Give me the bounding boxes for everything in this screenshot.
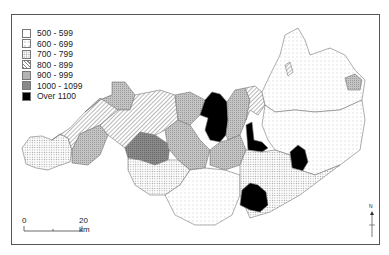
legend-item: 600 - 699 [22,39,82,50]
legend-label: 800 - 899 [37,60,73,70]
region [22,134,72,170]
legend-item: 700 - 799 [22,49,82,60]
legend-label: 500 - 599 [37,28,73,38]
scale-bar: 0 20 km [22,222,84,234]
legend-swatch-solid-icon [22,92,31,101]
region [175,92,205,125]
north-arrow-icon [367,203,377,239]
legend-swatch-hatch-icon [22,60,31,69]
legend-item: 900 - 999 [22,70,82,81]
legend-swatch-sparse-dots-icon [22,39,31,48]
legend: 500 - 599 600 - 699 700 - 799 800 - 899 … [22,28,82,102]
legend-item: 500 - 599 [22,28,82,39]
legend-swatch-crosshatch-icon [22,71,31,80]
legend-item: Over 1100 [22,91,82,102]
legend-label: 700 - 799 [37,49,73,59]
legend-swatch-dark-crosshatch-icon [22,81,31,90]
north-arrow: N [367,203,377,239]
legend-swatch-dense-dots-icon [22,50,31,59]
legend-label: 1000 - 1099 [37,81,82,91]
legend-swatch-blank-icon [22,29,31,38]
legend-label: 900 - 999 [37,70,73,80]
scale-bar-line-icon [22,222,84,234]
region [262,28,365,112]
legend-label: 600 - 699 [37,39,73,49]
legend-item: 800 - 899 [22,60,82,71]
legend-item: 1000 - 1099 [22,81,82,92]
legend-label: Over 1100 [37,91,76,101]
